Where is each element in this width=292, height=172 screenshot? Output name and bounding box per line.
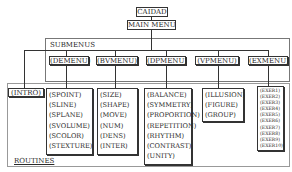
routine-item: (FIGURE)	[205, 100, 241, 110]
root-node: CAIDAD	[136, 7, 168, 17]
routine-item: (UNITY)	[147, 151, 189, 161]
routine-item: (SCOLOR)	[49, 131, 90, 141]
routine-item: (ILLUSION)	[205, 90, 241, 100]
connector-vpmenu-list	[218, 65, 219, 88]
routine-item: (REPETITION)	[147, 121, 189, 131]
exmenu-routines: (EXER1) (EXER2) (EXER3) (EXER4) (EXER5) …	[257, 86, 284, 151]
connector-bus	[24, 50, 268, 51]
connector-main-bus	[151, 30, 152, 50]
main-menu-node: MAIN MENU	[127, 20, 176, 30]
routine-item: (SPLANE)	[49, 110, 90, 120]
demenu-routines: (SPOINT) (SLINE) (SPLANE) (SVOLUME) (SCO…	[46, 88, 93, 155]
routine-item: (SHAPE)	[100, 100, 135, 110]
bvmenu-routines: (SIZE) (SHAPE) (MOVE) (NUM) (DENS) (INTE…	[97, 88, 138, 155]
routine-item: (RHYTHM)	[147, 131, 189, 141]
submenu-dpmenu: (DPMENU)	[146, 56, 186, 65]
connector-intro	[24, 50, 25, 88]
routine-item: (INTER)	[100, 141, 135, 151]
routine-item: (EXER10)	[260, 143, 281, 149]
routine-item: (EXER9)	[260, 137, 281, 143]
routine-item: (SYMMETRY)	[147, 100, 189, 110]
connector-demenu-list	[66, 65, 67, 88]
routine-item: (SVOLUME)	[49, 121, 90, 131]
connector-exmenu-list	[268, 65, 269, 88]
routine-item: (SLINE)	[49, 100, 90, 110]
routines-frame-label: ROUTINES	[14, 157, 54, 165]
routine-item: (NUM)	[100, 121, 135, 131]
routine-item: (SIZE)	[100, 90, 135, 100]
connector-bvmenu-list	[115, 65, 116, 88]
routine-item: (GROUP)	[205, 110, 241, 120]
submenus-frame-label: SUBMENUS	[50, 41, 95, 49]
submenu-bvmenu: (BVMENU)	[96, 56, 138, 65]
routine-item: (DENS)	[100, 131, 135, 141]
routine-item: (STEXTURE)	[49, 141, 90, 151]
routine-item: (CONTRAST)	[147, 141, 189, 151]
routine-item: (MOVE)	[100, 110, 135, 120]
submenu-demenu: (DEMENU)	[49, 56, 89, 65]
routine-item: (EXER7)	[260, 125, 281, 131]
intro-node: (INTRO)	[8, 88, 44, 97]
submenu-vpmenu: (VPMENU)	[195, 56, 239, 65]
routine-item: (EXER6)	[260, 118, 281, 124]
routine-item: (SPOINT)	[49, 90, 90, 100]
routine-item: (BALANCE)	[147, 90, 189, 100]
routine-item: (PROPORTION)	[147, 110, 189, 120]
dpmenu-routines: (BALANCE) (SYMMETRY) (PROPORTION) (REPET…	[144, 88, 192, 165]
submenu-exmenu: (EXMENU)	[248, 56, 288, 65]
vpmenu-routines: (ILLUSION) (FIGURE) (GROUP)	[202, 88, 244, 122]
routine-item: (EXER8)	[260, 131, 281, 137]
connector-dpmenu-list	[166, 65, 167, 88]
